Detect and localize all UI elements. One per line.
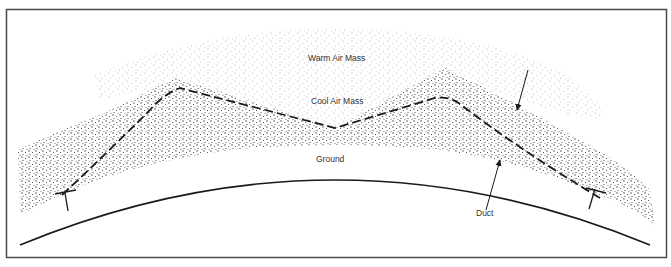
atmospheric-duct-diagram: Warm Air Mass Cool Air Mass Ground Duct	[0, 0, 671, 267]
warm-air-mass-label: Warm Air Mass	[308, 53, 365, 63]
duct-label: Duct	[476, 208, 494, 218]
ground-label: Ground	[316, 154, 345, 164]
cool-air-mass-label: Cool Air Mass	[311, 96, 363, 106]
